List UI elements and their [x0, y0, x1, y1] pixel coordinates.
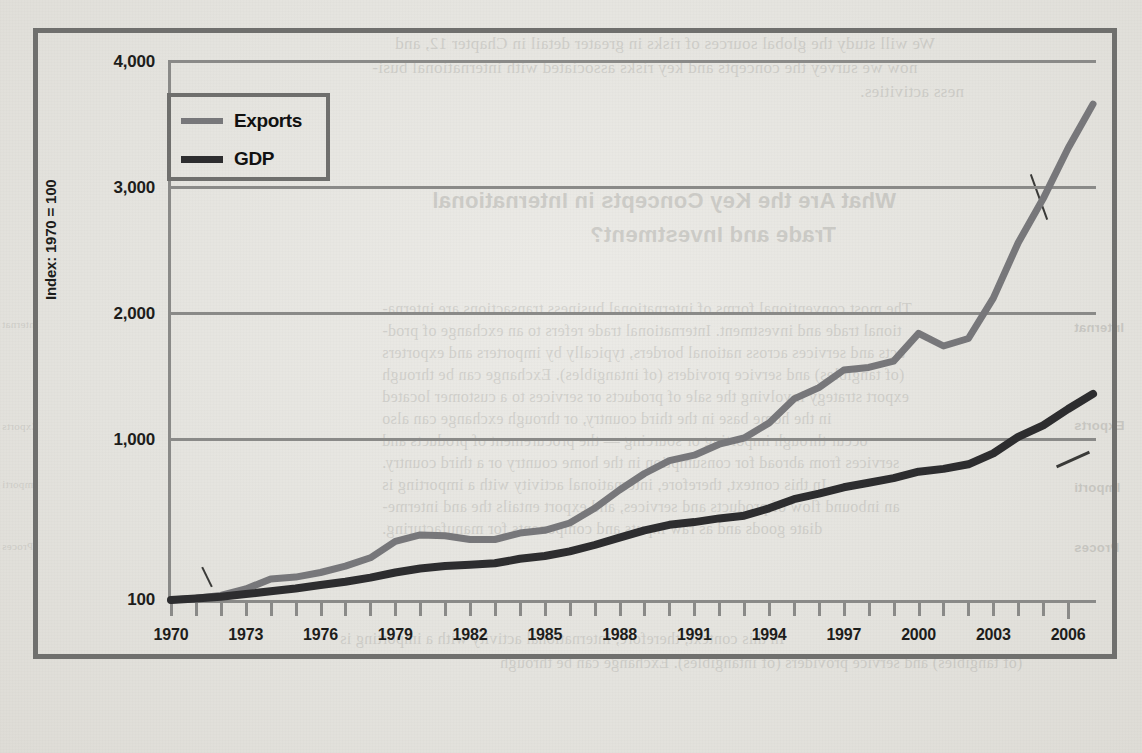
y-tick-label: 100 [60, 590, 155, 610]
legend-item-gdp: GDP [181, 147, 274, 171]
x-tick [992, 603, 995, 616]
x-tick-label: 1985 [515, 626, 575, 644]
x-tick [1067, 603, 1070, 619]
line-swatch-gdp-icon [181, 156, 223, 163]
x-tick [419, 603, 422, 616]
y-axis-title: Index: 1970 = 100 [42, 180, 59, 300]
x-tick [668, 603, 671, 616]
gdp-line [171, 394, 1093, 600]
x-tick [195, 603, 198, 616]
x-tick [544, 603, 547, 616]
x-tick [444, 603, 447, 616]
x-tick [1042, 603, 1045, 616]
x-tick-label: 1979 [365, 626, 425, 644]
x-tick [344, 603, 347, 616]
x-tick [1017, 603, 1020, 616]
x-tick [918, 603, 921, 616]
x-tick-label: 1988 [590, 626, 650, 644]
x-tick [320, 603, 323, 616]
x-tick [693, 603, 696, 616]
x-tick [868, 603, 871, 616]
y-tick-label: 3,000 [60, 178, 155, 198]
x-tick-label: 1976 [291, 626, 351, 644]
x-tick-label: 1997 [814, 626, 874, 644]
x-tick [718, 603, 721, 616]
x-tick [793, 603, 796, 616]
x-tick-label: 1991 [664, 626, 724, 644]
y-tick-label: 4,000 [60, 52, 155, 72]
x-tick [569, 603, 572, 616]
x-tick-label: 1970 [141, 626, 201, 644]
x-tick [295, 603, 298, 616]
x-tick [245, 603, 248, 616]
x-tick [743, 603, 746, 616]
x-tick [220, 603, 223, 616]
x-tick [843, 603, 846, 616]
x-tick [768, 603, 771, 616]
x-tick [369, 603, 372, 616]
x-tick-label: 1973 [216, 626, 276, 644]
x-tick-label: 2000 [889, 626, 949, 644]
x-tick [967, 603, 970, 616]
y-tick-label: 2,000 [60, 304, 155, 324]
x-tick [494, 603, 497, 616]
x-tick [394, 603, 397, 616]
x-tick [818, 603, 821, 616]
x-tick [594, 603, 597, 616]
x-tick [469, 603, 472, 616]
x-tick [619, 603, 622, 616]
legend-label: Exports [234, 110, 302, 132]
x-tick [519, 603, 522, 616]
x-tick-label: 2003 [963, 626, 1023, 644]
x-tick-label: 2006 [1038, 626, 1098, 644]
chart-legend: Exports GDP [167, 93, 330, 181]
x-tick [893, 603, 896, 616]
legend-label: GDP [234, 148, 274, 170]
x-tick [643, 603, 646, 616]
x-tick-label: 1982 [440, 626, 500, 644]
x-tick [942, 603, 945, 616]
x-tick [270, 603, 273, 616]
legend-item-exports: Exports [181, 109, 302, 133]
x-tick [170, 603, 173, 616]
y-tick-label: 1,000 [60, 430, 155, 450]
line-swatch-exports-icon [181, 118, 223, 124]
x-tick-label: 1994 [739, 626, 799, 644]
